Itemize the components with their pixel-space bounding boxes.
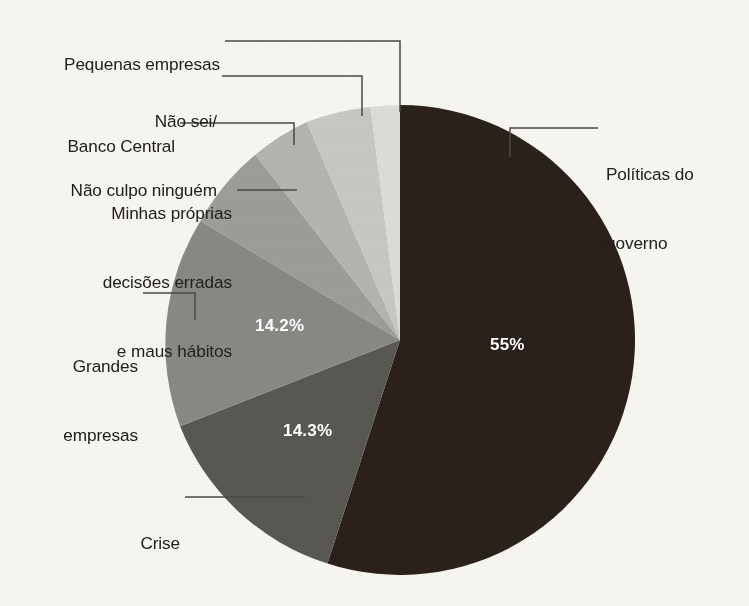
label-politicas-line1: Políticas do <box>606 163 746 186</box>
slice-value-crise-economica-global: 14.3% <box>283 421 332 441</box>
label-grandes-line2: empresas <box>10 424 138 447</box>
label-minhas-line2: decisões erradas <box>10 271 232 294</box>
label-crise-line2: econômica <box>10 601 180 606</box>
label-minhas-line1: Minhas próprias <box>10 202 232 225</box>
label-crise-economica-global: Crise econômica global <box>10 486 180 606</box>
slice-value-grandes-empresas: 14.2% <box>255 316 304 336</box>
label-grandes-line1: Grandes <box>10 355 138 378</box>
label-politicas-do-governo: Políticas do governo <box>606 117 746 301</box>
label-grandes-empresas: Grandes empresas <box>10 309 138 493</box>
label-politicas-line2: governo <box>606 232 746 255</box>
leader-line-nao-sei <box>222 76 362 116</box>
pie-chart-figure: Pequenas empresas Não sei/ Não culpo nin… <box>0 0 749 606</box>
label-banco-central-text: Banco Central <box>67 136 175 156</box>
slice-value-politicas-do-governo: 55% <box>490 335 525 355</box>
label-crise-line1: Crise <box>10 532 180 555</box>
